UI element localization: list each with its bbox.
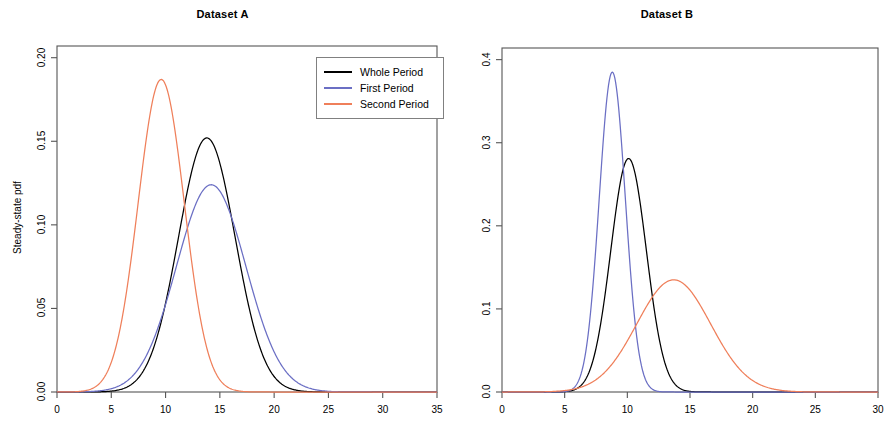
plot-area-dataset-b — [445, 0, 889, 432]
legend-item: Second Period — [324, 96, 435, 112]
x-tick-label: 15 — [673, 404, 707, 415]
legend-item: First Period — [324, 80, 435, 96]
density-curve — [57, 79, 437, 392]
x-tick-label: 20 — [736, 404, 770, 415]
y-tick-label: 0.2 — [481, 208, 492, 242]
figure-canvas: Dataset A Steady-state pdf 0510152025303… — [0, 0, 889, 432]
y-tick-label: 0.20 — [36, 40, 47, 74]
y-tick-label: 0.05 — [36, 291, 47, 325]
density-curve — [57, 185, 437, 392]
x-tick-label: 30 — [861, 404, 889, 415]
plot-frame — [502, 48, 878, 392]
chart-panel-dataset-a: Dataset A Steady-state pdf 0510152025303… — [0, 0, 445, 432]
density-curve — [502, 159, 878, 392]
x-tick-label: 20 — [257, 404, 291, 415]
x-tick-label: 5 — [548, 404, 582, 415]
legend-item: Whole Period — [324, 64, 435, 80]
y-tick-label: 0.15 — [36, 124, 47, 158]
y-tick-label: 0.00 — [36, 375, 47, 409]
legend-dataset-a: Whole PeriodFirst PeriodSecond Period — [316, 57, 444, 119]
y-tick-label: 0.10 — [36, 207, 47, 241]
legend-line-swatch — [324, 103, 352, 105]
x-tick-label: 15 — [203, 404, 237, 415]
y-tick-label: 0.4 — [481, 42, 492, 76]
y-tick-label: 0.3 — [481, 125, 492, 159]
x-tick-label: 5 — [94, 404, 128, 415]
legend-item-label: Whole Period — [360, 67, 423, 78]
y-tick-label: 0.1 — [481, 291, 492, 325]
x-tick-label: 10 — [149, 404, 183, 415]
legend-line-swatch — [324, 87, 352, 89]
y-tick-label: 0.0 — [481, 375, 492, 409]
legend-item-label: First Period — [360, 83, 414, 94]
chart-panel-dataset-b: Dataset B Steady-state pdf 0510152025300… — [445, 0, 889, 432]
x-tick-label: 25 — [798, 404, 832, 415]
legend-line-swatch — [324, 71, 352, 73]
density-curve — [502, 72, 878, 392]
y-axis-label-a: Steady-state pdf — [12, 163, 23, 273]
density-curve — [502, 280, 878, 392]
legend-item-label: Second Period — [360, 99, 429, 110]
x-tick-label: 10 — [610, 404, 644, 415]
x-tick-label: 30 — [366, 404, 400, 415]
x-tick-label: 25 — [311, 404, 345, 415]
